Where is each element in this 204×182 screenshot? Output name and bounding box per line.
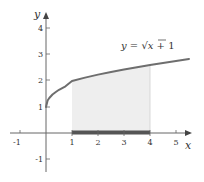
- x-tick-label: -1: [13, 138, 21, 147]
- x-tick-label: 2: [95, 138, 100, 147]
- x-tick-label: 4: [147, 138, 152, 147]
- y-axis-arrow-icon: [43, 12, 49, 19]
- y-tick-label: 4: [38, 24, 43, 33]
- x-tick-label: 1: [69, 138, 74, 147]
- curve-equation-label: y = √x + 1: [120, 40, 175, 51]
- y-tick-label: 1: [38, 103, 43, 112]
- y-ticks: [46, 28, 50, 159]
- shaded-area: [72, 65, 150, 133]
- y-tick-label: -1: [35, 155, 43, 164]
- y-tick-label: 3: [38, 50, 43, 59]
- y-tick-label: 2: [38, 76, 43, 85]
- y-axis-label: y: [33, 8, 41, 21]
- x-axis-label: x: [185, 139, 192, 152]
- x-tick-label: 3: [121, 138, 126, 147]
- chart: -1 1 2 3 4 5 4 3 2 1 -1 x y y = √x + 1: [0, 0, 204, 182]
- x-axis-arrow-icon: [185, 130, 192, 136]
- x-tick-label: 5: [173, 138, 178, 147]
- interval-bar: [72, 131, 150, 135]
